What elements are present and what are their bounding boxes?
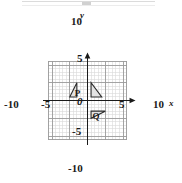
y-tick-label-pos5: 5 [77,53,83,64]
x-tick-label-neg5: -5 [41,99,50,110]
shape-label-q: Q [92,112,99,121]
x-axis-name: x [169,99,174,108]
shape-label-p: P [75,89,81,98]
coordinate-grid-svg [0,0,182,183]
x-tick-label-pos5: 5 [119,99,125,110]
y-tick-label-neg10: -10 [68,163,83,174]
y-tick-label-neg5: -5 [72,126,81,137]
y-axis-name: y [80,11,84,20]
x-tick-label-neg10: -10 [4,99,19,110]
coordinate-plane-figure: -10 -5 0 5 10 10 5 -5 -10 x y P Q [0,0,182,183]
x-tick-label-pos10: 10 [153,99,164,110]
